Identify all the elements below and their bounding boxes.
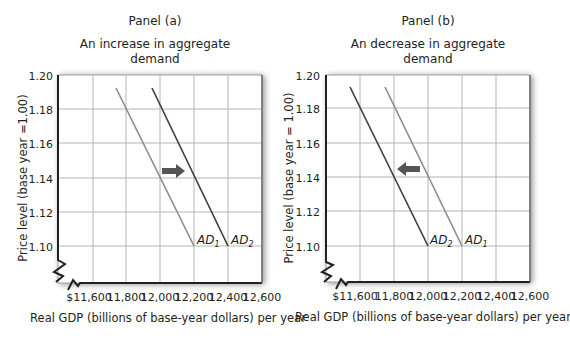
- panel-a-y-axis-label: Price level (base year =1.00): [16, 94, 30, 261]
- svg-text:12,600: 12,600: [243, 291, 282, 304]
- svg-text:1.18: 1.18: [296, 103, 321, 116]
- svg-text:1.20: 1.20: [296, 70, 321, 83]
- panel-b-x-axis-label: Real GDP (billions of base-year dollars)…: [295, 310, 570, 324]
- svg-text:12,000: 12,000: [141, 291, 180, 304]
- chart-canvas: Panel (a) An increase in aggregate deman…: [0, 0, 570, 340]
- panel-a-title-line2: demand: [130, 52, 179, 66]
- svg-text:12,200: 12,200: [175, 291, 214, 304]
- svg-text:12,200: 12,200: [443, 290, 482, 303]
- svg-text:12,400: 12,400: [477, 290, 516, 303]
- svg-text:1.12: 1.12: [29, 207, 54, 220]
- panel-b-y-ticks: 1.20 1.18 1.16 1.14 1.12 1.10: [296, 70, 321, 254]
- panel-a-label: Panel (a): [129, 14, 182, 28]
- svg-text:1.10: 1.10: [29, 241, 54, 254]
- panel-b-title-line2: demand: [403, 52, 452, 66]
- svg-text:11,800: 11,800: [107, 291, 146, 304]
- panel-b-x-ticks: $11,600 11,800 12,000 12,200 12,400 12,6…: [332, 290, 549, 303]
- svg-text:1.12: 1.12: [296, 206, 321, 219]
- svg-text:11,800: 11,800: [375, 290, 414, 303]
- panel-a: Panel (a) An increase in aggregate deman…: [16, 14, 306, 325]
- svg-text:12,600: 12,600: [511, 290, 550, 303]
- svg-text:1.16: 1.16: [29, 138, 54, 151]
- svg-text:1.18: 1.18: [29, 104, 54, 117]
- svg-text:1.14: 1.14: [29, 173, 54, 186]
- panel-a-x-axis-label: Real GDP (billions of base-year dollars)…: [30, 311, 306, 325]
- panel-a-title-line1: An increase in aggregate: [80, 37, 230, 51]
- svg-text:12,000: 12,000: [409, 290, 448, 303]
- panel-a-x-ticks: $11,600 11,800 12,000 12,200 12,400 12,6…: [66, 291, 281, 304]
- svg-text:$11,600: $11,600: [66, 291, 112, 304]
- panel-b-title-line1: An decrease in aggregate: [351, 37, 506, 51]
- svg-text:1.20: 1.20: [29, 70, 54, 83]
- panel-a-y-ticks: 1.20 1.18 1.16 1.14 1.12 1.10: [29, 70, 54, 254]
- panel-b: Panel (b) An decrease in aggregate deman…: [282, 14, 570, 324]
- svg-text:1.10: 1.10: [296, 241, 321, 254]
- svg-text:1.14: 1.14: [296, 172, 321, 185]
- svg-text:1.16: 1.16: [296, 138, 321, 151]
- svg-text:12,400: 12,400: [209, 291, 248, 304]
- panel-b-y-axis-label: Price level (base year = 1.00): [282, 93, 296, 264]
- svg-text:$11,600: $11,600: [332, 290, 378, 303]
- panel-b-label: Panel (b): [401, 14, 454, 28]
